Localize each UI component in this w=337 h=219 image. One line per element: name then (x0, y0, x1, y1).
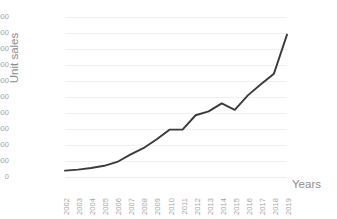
x-axis-tick-label: 2005 (101, 198, 110, 215)
y-axis-tick-label: 45 000 (0, 28, 9, 37)
y-axis-tick-label: 20 000 (0, 108, 9, 117)
x-axis-tick-label: 2017 (258, 198, 267, 215)
x-axis-tick-label: 2014 (219, 198, 228, 215)
x-axis-tick-label: 2019 (284, 198, 293, 215)
plot-area: 05 00010 00015 00020 00025 00030 00035 0… (65, 17, 287, 177)
y-axis-tick-label: 25 000 (0, 92, 9, 101)
x-axis-tick-label: 2010 (167, 198, 176, 215)
y-axis-tick-label: 0 (0, 172, 9, 181)
y-axis-tick-label: 15 000 (0, 124, 9, 133)
y-axis-tick-label: 5 000 (0, 156, 9, 165)
y-axis-title: Unit sales (8, 18, 20, 98)
x-axis-tick-label: 2003 (75, 198, 84, 215)
gridline (65, 177, 287, 178)
y-axis-tick-label: 10 000 (0, 140, 9, 149)
x-axis-tick-label: 2018 (271, 198, 280, 215)
x-axis-tick-label: 2002 (62, 198, 71, 215)
y-axis-tick-label: 50 000 (0, 12, 9, 21)
y-axis-tick-label: 30 000 (0, 76, 9, 85)
x-axis-tick-label: 2009 (153, 198, 162, 215)
series-layer (65, 17, 287, 177)
x-axis-tick-label: 2016 (245, 198, 254, 215)
line-chart: Unit sales from 2002 to 2019 Unit sales … (0, 0, 337, 219)
series-line-unit-sales (65, 35, 287, 171)
chart-title: Unit sales from 2002 to 2019 (0, 0, 337, 3)
x-axis-tick-label: 2007 (127, 198, 136, 215)
x-axis-title: Years (292, 178, 321, 190)
x-axis-tick-label: 2013 (206, 198, 215, 215)
x-axis-tick-label: 2008 (140, 198, 149, 215)
x-axis-tick-label: 2011 (180, 198, 189, 215)
x-axis-tick-label: 2004 (88, 198, 97, 215)
x-axis-tick-label: 2015 (232, 198, 241, 215)
y-axis-tick-label: 40 000 (0, 44, 9, 53)
x-axis-tick-label: 2006 (114, 198, 123, 215)
y-axis-tick-label: 35 000 (0, 60, 9, 69)
x-axis-tick-label: 2012 (193, 198, 202, 215)
